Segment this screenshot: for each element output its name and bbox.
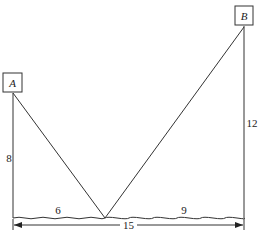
point-a-box: A — [3, 73, 22, 92]
path-vertex-to-b — [105, 27, 244, 218]
diagram-canvas: A B 8 12 6 9 15 — [0, 0, 269, 236]
left-segment-label: 6 — [55, 204, 61, 216]
point-b-label: B — [241, 10, 248, 22]
right-segment-label: 9 — [181, 204, 187, 216]
height-a-label: 8 — [6, 152, 12, 164]
point-b-box: B — [235, 6, 253, 25]
point-a-label: A — [8, 77, 16, 89]
total-width-label: 15 — [123, 219, 135, 231]
path-a-to-vertex — [13, 93, 105, 218]
height-b-label: 12 — [247, 117, 258, 129]
